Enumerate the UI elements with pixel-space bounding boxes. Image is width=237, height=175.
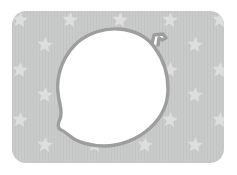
illustration-canvas: Acorn shape on starred background <box>0 0 237 175</box>
acorn-illustration: Acorn shape on starred background <box>0 0 237 175</box>
acorn-body <box>58 29 168 146</box>
acorn-group <box>58 29 168 146</box>
